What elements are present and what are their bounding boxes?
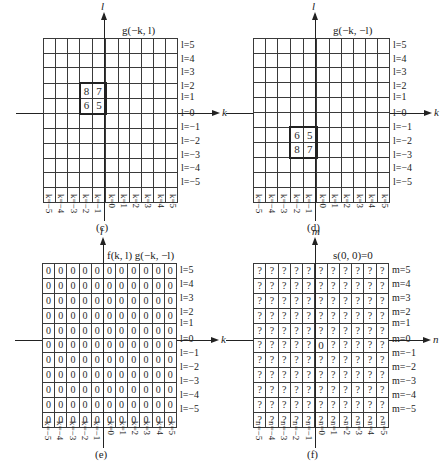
row-label: m=−3 — [392, 376, 416, 386]
grid-cell: 0 — [43, 398, 55, 413]
grid-cell: ? — [290, 398, 302, 413]
column-label: k=−3 — [279, 194, 288, 213]
grid-cell — [290, 158, 303, 173]
grid-cell: 6 — [290, 127, 303, 142]
grid-cell: 0 — [43, 353, 55, 368]
column-label: k=−4 — [56, 194, 65, 213]
grid-row — [254, 53, 390, 68]
grid-row: ??????????? — [254, 368, 389, 383]
grid-cell: 0 — [79, 278, 91, 293]
grid-row: 00000000000 — [43, 293, 177, 308]
grid-cell — [329, 39, 341, 54]
grid-row: ?????0????? — [254, 338, 389, 353]
grid-cell — [341, 53, 353, 68]
grid-cell — [166, 173, 178, 188]
grid-row — [44, 53, 178, 68]
column-label: k=3 — [355, 194, 364, 208]
grid-cell: ? — [266, 278, 278, 293]
grid-cell — [166, 68, 178, 83]
grid-row: 00000000000 — [43, 398, 177, 413]
grid-cell — [254, 39, 266, 54]
grid-cell — [377, 173, 389, 188]
grid-cell — [55, 98, 67, 113]
grid-cell — [67, 53, 79, 68]
grid-cell — [130, 158, 142, 173]
grid-row — [44, 39, 178, 54]
row-label: l=−4 — [180, 390, 199, 400]
column-label: k=5 — [380, 194, 389, 208]
grid-cell: 0 — [140, 383, 152, 398]
grid-cell: ? — [352, 398, 364, 413]
grid-cell: ? — [327, 293, 339, 308]
row-label: m=3 — [392, 293, 410, 303]
grid-cell: ? — [266, 338, 278, 353]
grid-cell — [130, 83, 142, 98]
grid-cell — [142, 68, 154, 83]
grid-c: 8765 — [43, 38, 178, 203]
column-label: k=4 — [367, 194, 376, 208]
row-label: m=−5 — [392, 404, 416, 414]
grid-cell — [44, 68, 56, 83]
grid-cell — [254, 173, 266, 188]
grid-cell: 0 — [43, 383, 55, 398]
grid-cell: 0 — [43, 293, 55, 308]
grid-row: ??????????? — [254, 353, 389, 368]
column-label: k=0 — [107, 194, 116, 208]
grid-cell — [329, 53, 341, 68]
grid-cell — [55, 129, 67, 144]
vertical-axis — [315, 239, 316, 448]
column-label: k=−2 — [292, 194, 301, 213]
grid-cell — [67, 114, 79, 129]
grid-cell: 0 — [103, 368, 115, 383]
grid-cell: 0 — [116, 323, 128, 338]
grid-cell — [80, 114, 93, 129]
grid-cell — [341, 143, 353, 158]
grid-cell — [329, 127, 341, 142]
grid-cell: ? — [254, 368, 266, 383]
grid-cell — [67, 39, 79, 54]
grid-cell — [55, 39, 67, 54]
grid-cell — [365, 127, 377, 142]
grid-cell: 0 — [116, 383, 128, 398]
grid-row: 00000000000 — [43, 338, 177, 353]
grid-cell: ? — [376, 398, 388, 413]
grid-cell: ? — [352, 353, 364, 368]
grid-row: 87 — [254, 143, 390, 158]
grid-cell — [254, 127, 266, 142]
column-label: k=5 — [167, 421, 176, 435]
grid-cell: 0 — [116, 293, 128, 308]
grid-cell: ? — [290, 308, 302, 323]
grid-cell — [80, 158, 93, 173]
grid-cell: 0 — [67, 278, 79, 293]
grid-cell: ? — [364, 383, 376, 398]
grid-cell: ? — [303, 398, 315, 413]
grid-cell — [266, 112, 278, 127]
grid-cell — [166, 53, 178, 68]
grid-cell — [154, 39, 166, 54]
grid-cell: 0 — [128, 338, 140, 353]
grid-cell — [106, 129, 118, 144]
grid-cell — [377, 158, 389, 173]
grid-cell: ? — [364, 353, 376, 368]
grid-row — [254, 112, 390, 127]
grid-cell: 0 — [152, 264, 164, 279]
grid-cell — [329, 83, 341, 98]
column-label: n=0 — [317, 421, 326, 435]
grid-cell: 0 — [140, 293, 152, 308]
grid-cell: 0 — [103, 323, 115, 338]
grid-cell — [106, 98, 118, 113]
grid-cell — [118, 158, 130, 173]
grid-cell: 0 — [91, 398, 103, 413]
grid-cell — [130, 53, 142, 68]
grid-cell — [365, 83, 377, 98]
row-label: l=3 — [393, 67, 406, 77]
grid-row: 00000000000 — [43, 323, 177, 338]
grid-cell — [106, 144, 118, 159]
grid-cell: ? — [266, 293, 278, 308]
grid-cell: ? — [303, 308, 315, 323]
grid-cell — [377, 143, 389, 158]
row-label: l=−1 — [181, 122, 200, 132]
grid-cell — [142, 173, 154, 188]
grid-row — [254, 158, 390, 173]
grid-cell: 0 — [128, 293, 140, 308]
